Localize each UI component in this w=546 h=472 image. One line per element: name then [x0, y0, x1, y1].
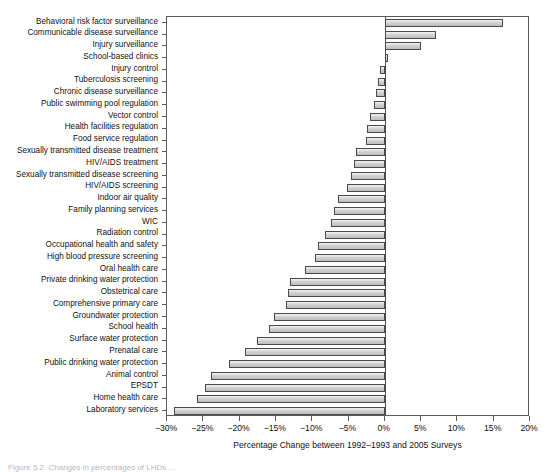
- y-axis-label: Injury control: [111, 65, 158, 73]
- x-axis-tick-labels: −30%−25%−20%−15%−10%−5%0%5%10%15%20%: [0, 423, 546, 437]
- bar-row: [167, 64, 528, 76]
- y-axis-label: Sexually transmitted disease screening: [16, 171, 158, 179]
- bar: [211, 372, 385, 380]
- bar-row: [167, 111, 528, 123]
- x-axis-tick-label: −5%: [339, 423, 356, 433]
- bar: [380, 66, 384, 74]
- bar-row: [167, 370, 528, 382]
- y-axis-label: Home health care: [93, 394, 158, 402]
- bar: [370, 113, 385, 121]
- bar: [378, 78, 385, 86]
- bar: [290, 278, 384, 286]
- bar-row: [167, 146, 528, 158]
- bar-row: [167, 382, 528, 394]
- x-axis-tick: [239, 416, 240, 421]
- bar: [366, 137, 385, 145]
- bar: [205, 384, 385, 392]
- bar-row: [167, 193, 528, 205]
- bar: [347, 184, 385, 192]
- y-axis-label: Prenatal care: [109, 347, 158, 355]
- bar-row: [167, 135, 528, 147]
- y-axis-label: Obstetrical care: [101, 288, 158, 296]
- bar: [257, 337, 385, 345]
- bar-row: [167, 358, 528, 370]
- x-axis-tick: [311, 416, 312, 421]
- y-axis-label: Radiation control: [97, 229, 158, 237]
- bar-row: [167, 88, 528, 100]
- y-axis-label: High blood pressure screening: [47, 253, 158, 261]
- y-axis-label: Behavioral risk factor surveillance: [36, 18, 158, 26]
- y-axis-label: Public swimming pool regulation: [41, 100, 158, 108]
- bar: [334, 207, 385, 215]
- bar: [269, 325, 385, 333]
- bar: [305, 266, 385, 274]
- bar: [229, 360, 384, 368]
- bar-row: [167, 288, 528, 300]
- bar: [385, 19, 503, 27]
- bar-row: [167, 299, 528, 311]
- y-axis-labels: Behavioral risk factor surveillanceCommu…: [0, 16, 162, 416]
- y-axis-label: Private drinking water protection: [41, 276, 158, 284]
- bar-row: [167, 217, 528, 229]
- bar: [288, 289, 385, 297]
- y-axis-label: Vector control: [108, 112, 158, 120]
- x-axis-tick: [202, 416, 203, 421]
- y-axis-label: HIV/AIDS treatment: [86, 159, 158, 167]
- x-axis-tick: [384, 416, 385, 421]
- bar: [376, 89, 385, 97]
- bar-row: [167, 123, 528, 135]
- y-axis-label: Tuberculosis screening: [74, 76, 158, 84]
- x-axis-tick: [529, 416, 530, 421]
- bar-row: [167, 76, 528, 88]
- x-axis-tick: [420, 416, 421, 421]
- bar: [318, 242, 385, 250]
- x-axis-tick-label: 20%: [520, 423, 537, 433]
- y-axis-label: Laboratory services: [87, 406, 158, 414]
- x-axis-title: Percentage Change between 1992–1993 and …: [166, 440, 529, 450]
- x-axis-tick-label: 0%: [378, 423, 390, 433]
- y-axis-label: Health facilities regulation: [65, 123, 158, 131]
- y-axis-label: School health: [108, 323, 158, 331]
- bar: [174, 407, 385, 415]
- x-axis-tick: [275, 416, 276, 421]
- y-axis-label: School-based clinics: [83, 53, 158, 61]
- bar-row: [167, 182, 528, 194]
- bar-row: [167, 311, 528, 323]
- y-axis-label: Public drinking water protection: [44, 359, 158, 367]
- y-axis-label: Animal control: [106, 371, 158, 379]
- bar-row: [167, 229, 528, 241]
- bar-row: [167, 158, 528, 170]
- y-axis-label: Injury surveillance: [92, 41, 158, 49]
- x-axis-tick-label: 10%: [448, 423, 465, 433]
- bar: [354, 160, 384, 168]
- bar: [286, 301, 385, 309]
- bar: [315, 254, 385, 262]
- figure-caption: Figure 5.2. Changes in percentages of LH…: [8, 463, 546, 472]
- y-axis-label: HIV/AIDS screening: [85, 182, 158, 190]
- x-axis-tick: [493, 416, 494, 421]
- x-axis-tick-label: −15%: [264, 423, 286, 433]
- y-axis-label: Groundwater protection: [72, 312, 158, 320]
- bar-row: [167, 29, 528, 41]
- x-axis-ticks: [166, 416, 529, 422]
- bar: [245, 348, 384, 356]
- bar: [351, 172, 384, 180]
- chart-figure: Behavioral risk factor surveillanceCommu…: [0, 0, 546, 472]
- x-axis-tick-label: −10%: [300, 423, 322, 433]
- bar: [385, 42, 421, 50]
- bar: [197, 395, 384, 403]
- y-axis-label: Food service regulation: [73, 135, 158, 143]
- bar-row: [167, 170, 528, 182]
- x-axis-tick-label: −20%: [227, 423, 249, 433]
- bar: [274, 313, 384, 321]
- x-axis-tick-label: 5%: [414, 423, 426, 433]
- bar-row: [167, 335, 528, 347]
- bar-row: [167, 41, 528, 53]
- y-axis-label: WIC: [142, 218, 158, 226]
- bar: [385, 54, 389, 62]
- y-axis-label: Surface water protection: [69, 335, 158, 343]
- bar-row: [167, 276, 528, 288]
- x-axis-tick: [348, 416, 349, 421]
- bar-row: [167, 99, 528, 111]
- bar: [338, 195, 384, 203]
